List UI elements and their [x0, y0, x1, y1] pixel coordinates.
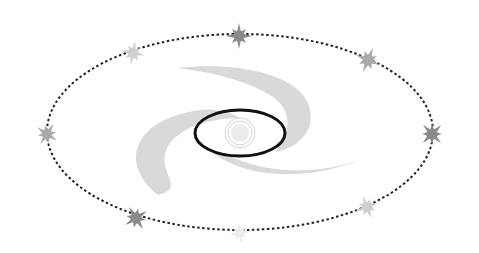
star-core — [234, 31, 245, 42]
star-core — [427, 129, 438, 140]
galaxy-arm-lower — [136, 109, 240, 195]
galaxy-arms — [136, 66, 385, 195]
galaxy-arm-right — [210, 148, 385, 174]
star-core — [131, 213, 142, 224]
star-core — [363, 55, 374, 66]
central-star — [225, 118, 255, 148]
star-core — [235, 228, 244, 237]
star-core — [128, 48, 138, 58]
star-core — [362, 202, 372, 212]
orbit-diagram — [0, 0, 479, 253]
star-core — [42, 129, 52, 139]
